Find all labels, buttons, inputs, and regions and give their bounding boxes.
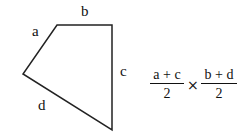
fraction-a-plus-c: a + c 2 (150, 67, 184, 101)
fraction-b-plus-d: b + d 2 (201, 67, 237, 101)
multiply-sign: × (187, 78, 199, 92)
side-label-c: c (120, 64, 127, 79)
side-label-b: b (81, 4, 89, 19)
fraction-numerator: a + c (150, 67, 184, 84)
side-label-d: d (38, 98, 46, 113)
fraction-denominator: 2 (201, 84, 237, 101)
side-label-a: a (32, 24, 39, 39)
quadrilateral-shape (23, 25, 112, 130)
fraction-numerator: b + d (201, 67, 237, 84)
fraction-denominator: 2 (150, 84, 184, 101)
